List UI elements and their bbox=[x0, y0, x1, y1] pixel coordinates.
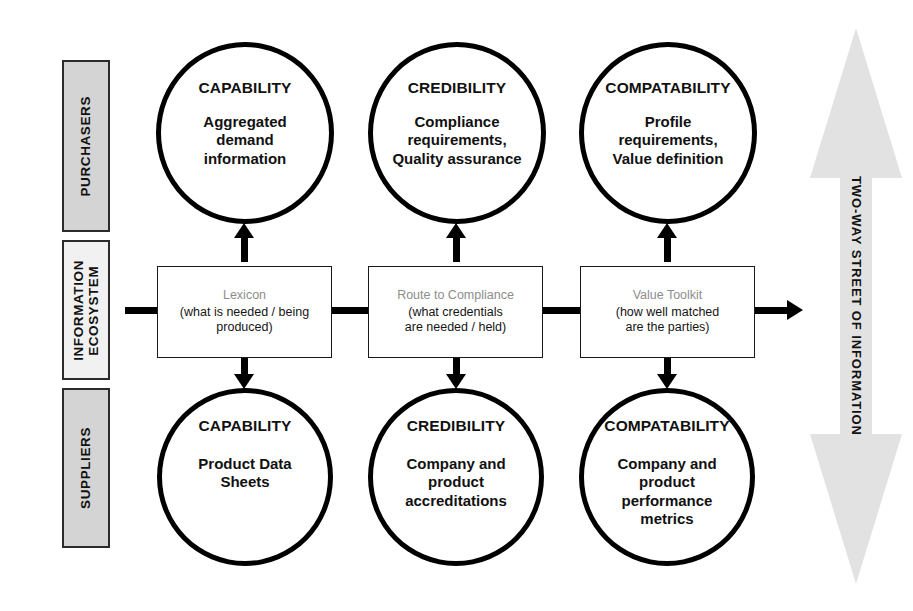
box-lexicon-subtitle: (what is needed / being produced) bbox=[180, 305, 309, 336]
connector-line-lexicon-to-route bbox=[331, 307, 369, 314]
circle-suppliers-compatability: COMPATABILITY Company and product perfor… bbox=[579, 388, 755, 566]
arrowhead-up-2-icon bbox=[446, 223, 466, 238]
box-value-toolkit-title: Value Toolkit bbox=[633, 288, 703, 304]
circle-purchasers-credibility: CREDIBILITY Compliance requirements, Qua… bbox=[368, 42, 546, 224]
band-suppliers: SUPPLIERS bbox=[62, 388, 110, 548]
circle-suppliers-credibility: CREDIBILITY Company and product accredit… bbox=[368, 388, 544, 566]
circle-suppliers-compatability-heading: COMPATABILITY bbox=[604, 417, 729, 435]
band-purchasers-label: PURCHASERS bbox=[78, 96, 93, 197]
circle-purchasers-compatability: COMPATABILITY Profile requirements, Valu… bbox=[579, 42, 757, 224]
circle-suppliers-compatability-body: Company and product performance metrics bbox=[617, 455, 716, 528]
circle-purchasers-capability-body: Aggregated demand information bbox=[203, 113, 286, 168]
two-way-arrow-icon bbox=[806, 28, 906, 584]
arrowhead-up-1-icon bbox=[234, 223, 254, 238]
stem-up-3 bbox=[664, 238, 671, 262]
circle-suppliers-credibility-body: Company and product accreditations bbox=[405, 455, 507, 510]
circle-purchasers-capability: CAPABILITY Aggregated demand information bbox=[156, 42, 334, 224]
band-information-ecosystem-label: INFORMATION ECOSYSTEM bbox=[71, 260, 101, 361]
circle-suppliers-capability-body: Product Data Sheets bbox=[198, 455, 291, 492]
arrowhead-right-icon bbox=[787, 300, 803, 320]
band-suppliers-label: SUPPLIERS bbox=[78, 427, 93, 509]
circle-purchasers-compatability-body: Profile requirements, Value definition bbox=[613, 113, 724, 168]
connector-line-left bbox=[125, 307, 159, 314]
box-value-toolkit: Value Toolkit (how well matched are the … bbox=[580, 266, 755, 358]
circle-purchasers-compatability-heading: COMPATABILITY bbox=[605, 79, 730, 97]
box-route-to-compliance-subtitle: (what credentials are needed / held) bbox=[405, 305, 506, 336]
circle-purchasers-credibility-heading: CREDIBILITY bbox=[408, 79, 506, 97]
box-route-to-compliance: Route to Compliance (what credentials ar… bbox=[368, 266, 543, 358]
box-value-toolkit-subtitle: (how well matched are the parties) bbox=[616, 305, 720, 336]
circle-suppliers-credibility-heading: CREDIBILITY bbox=[407, 417, 505, 435]
arrowhead-down-2-icon bbox=[446, 374, 466, 389]
arrowhead-down-3-icon bbox=[657, 374, 677, 389]
circle-purchasers-capability-heading: CAPABILITY bbox=[199, 79, 292, 97]
box-route-to-compliance-title: Route to Compliance bbox=[397, 288, 514, 304]
circle-suppliers-capability: CAPABILITY Product Data Sheets bbox=[157, 388, 333, 566]
stem-up-1 bbox=[241, 238, 248, 262]
connector-line-route-to-toolkit bbox=[543, 307, 581, 314]
band-information-ecosystem: INFORMATION ECOSYSTEM bbox=[62, 240, 110, 380]
circle-purchasers-credibility-body: Compliance requirements, Quality assuran… bbox=[392, 113, 521, 168]
circle-suppliers-capability-heading: CAPABILITY bbox=[199, 417, 292, 435]
diagram-canvas: PURCHASERS INFORMATION ECOSYSTEM SUPPLIE… bbox=[0, 0, 913, 611]
connector-line-right bbox=[754, 307, 787, 314]
arrowhead-down-1-icon bbox=[234, 374, 254, 389]
arrowhead-up-3-icon bbox=[657, 223, 677, 238]
box-lexicon-title: Lexicon bbox=[223, 288, 266, 304]
box-lexicon: Lexicon (what is needed / being produced… bbox=[157, 266, 332, 358]
band-purchasers: PURCHASERS bbox=[62, 60, 110, 232]
stem-up-2 bbox=[453, 238, 460, 262]
